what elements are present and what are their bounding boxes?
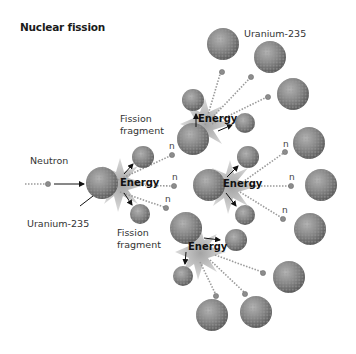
energy-label-2: Energy	[198, 113, 237, 124]
uranium-235-gen3-1	[207, 28, 239, 60]
fission-fragment-bottom-label-line1: Fission	[117, 227, 149, 239]
uranium-235-gen3-6	[294, 213, 326, 245]
fragment-gen2-1	[182, 89, 204, 111]
fission-fragment-top-label-line1: Fission	[120, 113, 152, 125]
uranium-235-initial	[86, 167, 118, 199]
fragment-gen2-4	[235, 205, 255, 225]
uranium-235-gen2-middle	[193, 169, 225, 201]
fission-fragment-top	[132, 146, 154, 168]
energy-label-4: Energy	[188, 241, 227, 252]
uranium-235-gen3-5	[305, 169, 337, 201]
fission-fragment-bottom-label-line2: fragment	[117, 239, 161, 251]
diagram-title: Nuclear fission	[20, 21, 105, 33]
uranium-235-label-initial: Uranium-235	[27, 218, 89, 230]
fragment-gen2-3	[237, 146, 259, 168]
uranium-235-gen3-2	[254, 41, 286, 73]
fragment-gen2-5	[225, 229, 247, 251]
uranium-235-gen2-bottom	[170, 212, 202, 244]
diagram-canvas	[0, 0, 356, 354]
uranium-235-gen2-top	[177, 123, 209, 155]
fragment-gen2-2	[235, 113, 255, 133]
uranium-235-gen3-9	[196, 299, 228, 331]
uranium-235-gen3-7	[273, 261, 305, 293]
neutron-symbol-1: n	[169, 141, 175, 151]
uranium-235-label-top: Uranium-235	[244, 28, 306, 40]
fission-fragment-top-label-line2: fragment	[120, 125, 164, 137]
energy-label-3: Energy	[223, 178, 262, 189]
energy-label-1: Energy	[120, 177, 159, 188]
nuclear-fission-diagram: Nuclear fission Neutron Uranium-235 Uran…	[0, 0, 356, 354]
neutron-label: Neutron	[30, 155, 68, 167]
neutron-symbol-2: n	[172, 172, 178, 182]
neutron-symbol-5: n	[289, 172, 295, 182]
neutron-symbol-4: n	[283, 139, 289, 149]
fragment-gen2-6	[173, 266, 193, 286]
uranium-235-gen3-3	[277, 78, 309, 110]
neutron-symbol-3: n	[165, 194, 171, 204]
neutron-symbol-6: n	[282, 205, 288, 215]
fission-fragment-bottom	[130, 204, 150, 224]
uranium-235-gen3-8	[240, 296, 272, 328]
uranium-235-gen3-4	[293, 127, 325, 159]
